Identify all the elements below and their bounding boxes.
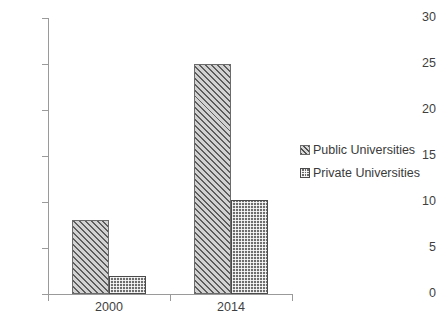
x-axis-tick (292, 294, 293, 301)
bar-private-2000 (109, 276, 146, 294)
y-axis-tick-label: 20 (404, 102, 436, 116)
y-axis-tick-label: 30 (404, 10, 436, 24)
x-axis-category-label: 2000 (48, 300, 170, 314)
legend-label-private: Private Universities (313, 166, 420, 180)
y-axis-tick-label: 0 (404, 286, 436, 300)
y-axis-tick-label: 5 (404, 240, 436, 254)
legend-item-public[interactable]: Public Universities (300, 143, 420, 157)
x-axis-category-label: 2014 (170, 300, 292, 314)
y-axis-tick-label: 10 (404, 194, 436, 208)
legend-label-public: Public Universities (313, 143, 415, 157)
bar-public-2014 (194, 64, 231, 294)
chart-legend: Public Universities Private Universities (300, 143, 420, 180)
bar-private-2014 (231, 200, 268, 294)
bar-public-2000 (72, 220, 109, 294)
y-axis-tick-label: 25 (404, 56, 436, 70)
legend-item-private[interactable]: Private Universities (300, 166, 420, 180)
private-swatch-icon (300, 168, 310, 178)
public-swatch-icon (300, 145, 310, 155)
plot-area (48, 18, 292, 294)
